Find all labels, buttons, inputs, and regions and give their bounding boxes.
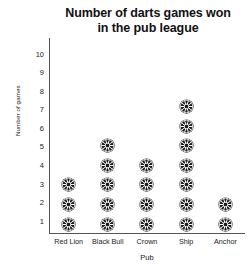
dartboard-icon <box>218 217 233 232</box>
chart-title: Number of darts games won in the pub lea… <box>48 6 248 36</box>
chart-title-line-2: in the pub league <box>48 21 248 36</box>
x-tick-label: Ship <box>167 237 206 246</box>
dartboard-icon <box>61 197 76 212</box>
y-tick-label: 1 <box>28 218 44 226</box>
data-column[interactable] <box>167 99 206 233</box>
y-tick-label: 4 <box>28 162 44 170</box>
y-tick-label: 5 <box>28 143 44 151</box>
dartboard-icon <box>61 177 76 192</box>
y-tick-label: 6 <box>28 125 44 133</box>
dartboard-icon <box>139 158 154 173</box>
data-column[interactable] <box>49 177 88 233</box>
dartboard-icon <box>139 217 154 232</box>
x-tick-label: Black Bull <box>88 237 127 246</box>
dartboard-icon <box>139 177 154 192</box>
dartboard-icon <box>139 197 154 212</box>
x-axis-line <box>49 233 245 234</box>
dartboard-icon <box>179 99 194 114</box>
dartboard-icon <box>61 217 76 232</box>
x-axis-title: Pub <box>49 253 245 262</box>
y-tick-label: 2 <box>28 199 44 207</box>
dartboard-icon <box>100 177 115 192</box>
dartboard-icon <box>179 177 194 192</box>
y-tick-label: 8 <box>28 88 44 96</box>
data-column[interactable] <box>206 197 245 233</box>
y-tick-label: 9 <box>28 69 44 77</box>
plot-area: 12345678910 Red LionBlack BullCrownShipA… <box>49 38 245 234</box>
pictogram-chart: Number of darts games won in the pub lea… <box>0 0 252 271</box>
dartboard-icon <box>179 197 194 212</box>
y-axis-title: Number of games <box>14 85 21 136</box>
dartboard-icon <box>179 217 194 232</box>
data-column[interactable] <box>88 138 127 233</box>
data-column[interactable] <box>127 158 166 233</box>
dartboard-icon <box>218 197 233 212</box>
y-tick-label: 10 <box>28 51 44 59</box>
dartboard-icon <box>100 197 115 212</box>
dartboard-icon <box>179 158 194 173</box>
y-tick-label: 7 <box>28 106 44 114</box>
y-tick-label: 3 <box>28 181 44 189</box>
dartboard-icon <box>179 119 194 134</box>
dartboard-icon <box>100 217 115 232</box>
x-tick-label: Anchor <box>206 237 245 246</box>
x-tick-label: Red Lion <box>49 237 88 246</box>
dartboard-icon <box>179 138 194 153</box>
dartboard-icon <box>100 158 115 173</box>
chart-title-line-1: Number of darts games won <box>65 6 231 20</box>
x-tick-label: Crown <box>127 237 166 246</box>
dartboard-icon <box>100 138 115 153</box>
